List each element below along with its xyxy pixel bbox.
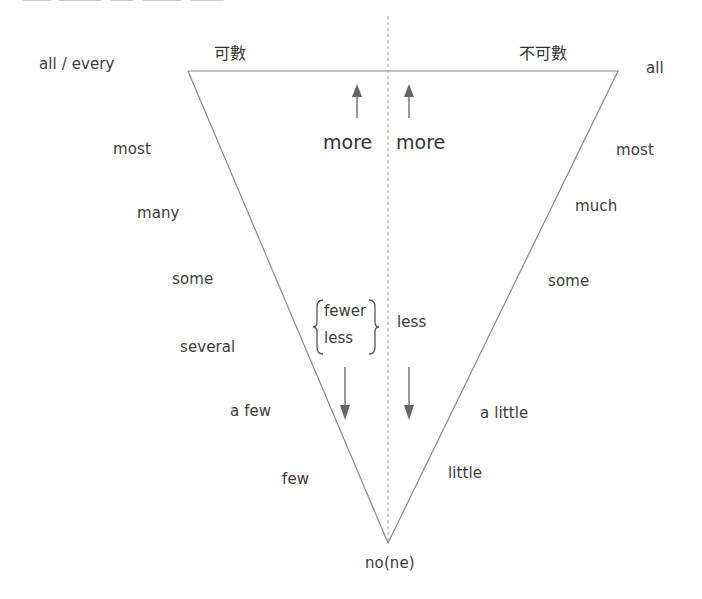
arrow-up-icon-left (352, 84, 362, 118)
left-label-few: few (282, 470, 309, 488)
bottom-label-none: no(ne) (365, 554, 415, 572)
fewer-less-bracket: fewer less (313, 298, 377, 356)
countable-header: 可數 (214, 40, 246, 64)
uncountable-header: 不可數 (519, 40, 567, 64)
bracket-option-fewer: fewer (324, 298, 366, 325)
left-label-several: several (180, 338, 235, 356)
left-label-many: many (137, 204, 180, 222)
right-label-all: all (646, 59, 664, 77)
left-label-all-every: all / every (39, 55, 115, 73)
right-more-label: more (396, 131, 445, 153)
right-label-much: much (575, 197, 617, 215)
right-label-a-little: a little (480, 404, 528, 422)
left-label-most: most (113, 140, 151, 158)
left-label-some: some (172, 270, 213, 288)
left-more-label: more (323, 131, 372, 153)
arrow-up-icon-right (404, 84, 414, 118)
right-label-most: most (616, 141, 654, 159)
right-less-label: less (397, 313, 426, 331)
left-label-a-few: a few (230, 402, 271, 420)
right-label-some: some (548, 272, 589, 290)
arrow-down-icon-left (340, 367, 350, 420)
arrow-down-icon-right (404, 367, 414, 420)
right-label-little: little (448, 464, 482, 482)
quantifier-diagram: 可數 不可數 all / every most many some severa… (0, 0, 702, 599)
bracket-option-less: less (324, 325, 366, 352)
